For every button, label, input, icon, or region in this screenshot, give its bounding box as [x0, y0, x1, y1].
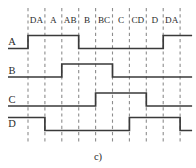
phase-label-da-0: DA	[30, 15, 44, 25]
phase-label-c-5: C	[118, 15, 124, 25]
signal-row-label-c: C	[8, 94, 15, 105]
phase-label-ab-2: AB	[64, 15, 77, 25]
figure-caption: c)	[94, 151, 103, 163]
waveform-trace-d	[8, 118, 192, 131]
phase-label-a-1: A	[50, 15, 57, 25]
waveform-trace-b	[8, 64, 192, 77]
signal-row-label-b: B	[8, 65, 15, 76]
phase-label-da-8: DA	[165, 15, 179, 25]
waveform-trace-a	[8, 36, 192, 49]
grid-lines-group	[28, 8, 180, 142]
phase-label-d-7: D	[151, 15, 158, 25]
phase-labels-group: DAAABBBCCCDDDA	[30, 15, 179, 25]
timing-diagram-figure: DAAABBBCCCDDDA ABCD c)	[0, 0, 196, 168]
phase-label-bc-4: BC	[98, 15, 110, 25]
signal-row-label-d: D	[8, 118, 16, 129]
waveform-traces-group	[8, 36, 192, 131]
figure-caption-group: c)	[94, 151, 103, 163]
waveform-trace-c	[8, 93, 192, 106]
phase-label-cd-6: CD	[131, 15, 144, 25]
signal-row-label-a: A	[8, 36, 16, 47]
timing-waveform-canvas: DAAABBBCCCDDDA ABCD c)	[0, 0, 196, 168]
phase-label-b-3: B	[84, 15, 90, 25]
signal-row-labels-group: ABCD	[8, 36, 16, 129]
